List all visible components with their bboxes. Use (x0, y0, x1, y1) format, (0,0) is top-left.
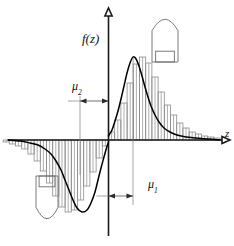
z-axis-label: z (224, 127, 230, 139)
mu2-label: μ2 (71, 79, 82, 97)
dimension-annotations: μ2μ1 (68, 58, 158, 205)
mu2-arrowhead (80, 98, 87, 103)
f-axis-label: f(z) (82, 31, 99, 46)
figure-container: μ2μ1 f(z) z (0, 0, 234, 246)
mu2-label-subscript: 2 (78, 88, 82, 97)
mu1-arrowhead (109, 193, 116, 198)
ship-upper-right (152, 19, 178, 62)
mu1-label-subscript: 1 (154, 186, 158, 195)
probability-density-figure: μ2μ1 f(z) z (0, 0, 234, 246)
mu1-arrowhead (127, 193, 134, 198)
mu1-label: μ1 (147, 177, 158, 195)
ship-lower-left (36, 176, 58, 219)
f-axis-arrowhead (105, 8, 112, 16)
axes-group (8, 8, 230, 236)
mu2-arrowhead (102, 98, 109, 103)
ship-upper-right-superstructure (156, 51, 175, 62)
